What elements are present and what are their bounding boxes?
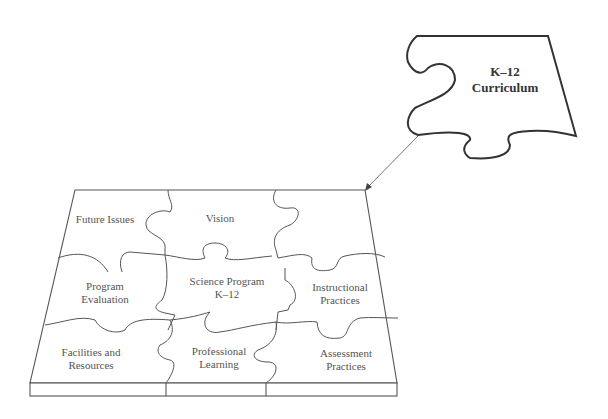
piece-label: Science Program: [190, 275, 265, 288]
piece-assessment-practices: Assessment Practices: [320, 347, 372, 373]
piece-label: Program: [81, 280, 129, 293]
piece-label: Evaluation: [81, 293, 129, 306]
piece-label: Future Issues: [76, 213, 134, 226]
piece-label: K–12: [190, 288, 265, 301]
k12-curriculum-label: K–12 Curriculum: [472, 64, 538, 96]
piece-label: Practices: [312, 294, 368, 307]
arrow-connector: [365, 136, 418, 191]
piece-label: Facilities and: [62, 346, 121, 359]
piece-program-evaluation: Program Evaluation: [81, 280, 129, 306]
piece-label: Instructional: [312, 281, 368, 294]
piece-professional-learning: Professional Learning: [192, 345, 246, 371]
piece-label: Resources: [62, 359, 121, 372]
piece-facilities-resources: Facilities and Resources: [62, 346, 121, 372]
piece-label: Vision: [206, 212, 235, 225]
piece-label: Assessment: [320, 347, 372, 360]
piece-instructional-practices: Instructional Practices: [312, 281, 368, 307]
piece-label: Professional: [192, 345, 246, 358]
k12-curriculum-piece: [407, 36, 576, 158]
k12-label-line1: K–12: [472, 64, 538, 80]
piece-future-issues: Future Issues: [76, 213, 134, 226]
piece-label: Practices: [320, 360, 372, 373]
piece-science-program: Science Program K–12: [190, 275, 265, 301]
piece-vision: Vision: [206, 212, 235, 225]
piece-label: Learning: [192, 358, 246, 371]
k12-label-line2: Curriculum: [472, 80, 538, 96]
